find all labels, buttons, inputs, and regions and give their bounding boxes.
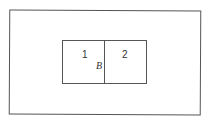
boundary-label: B (96, 60, 102, 71)
cell-2-label: 2 (122, 49, 128, 60)
cell-1-label: 1 (82, 49, 88, 60)
boundary-line (104, 41, 105, 83)
inner-box: 1 2 B (62, 40, 147, 84)
